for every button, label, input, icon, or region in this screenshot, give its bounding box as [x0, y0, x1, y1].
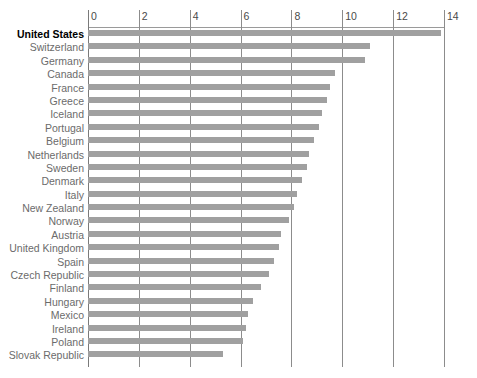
x-tick-label: 2 [139, 10, 148, 22]
category-label: Portugal [45, 122, 84, 135]
bar [88, 43, 370, 49]
category-label: Switzerland [30, 41, 84, 54]
bar-row: Denmark [88, 175, 444, 188]
category-label: Sweden [46, 162, 84, 175]
bar-row: Finland [88, 282, 444, 295]
bar-chart: 02468101214 United StatesSwitzerlandGerm… [0, 0, 477, 378]
bar-row: Austria [88, 229, 444, 242]
bar [88, 351, 223, 357]
category-label: Netherlands [27, 149, 84, 162]
bar [88, 84, 330, 90]
x-tick-label: 0 [88, 10, 97, 22]
bar-rows: United StatesSwitzerlandGermanyCanadaFra… [88, 28, 444, 363]
x-tick-label: 14 [444, 10, 459, 22]
bar [88, 204, 294, 210]
bar [88, 244, 279, 250]
category-label: Czech Republic [10, 269, 84, 282]
bar-row: Spain [88, 256, 444, 269]
bar-row: Ireland [88, 323, 444, 336]
category-label: Denmark [41, 175, 84, 188]
bar-row: United States [88, 28, 444, 41]
bar-row: Canada [88, 68, 444, 81]
bar-row: Norway [88, 215, 444, 228]
bar-row: Iceland [88, 108, 444, 121]
bar [88, 217, 289, 223]
category-label: Mexico [51, 309, 84, 322]
bar [88, 164, 307, 170]
bar [88, 137, 314, 143]
category-label: Finland [50, 282, 84, 295]
category-label: Germany [41, 55, 84, 68]
bar [88, 30, 441, 36]
x-tick-label: 4 [190, 10, 199, 22]
category-label: Norway [48, 215, 84, 228]
bar-row: Belgium [88, 135, 444, 148]
category-label: Belgium [46, 135, 84, 148]
category-label: Canada [47, 68, 84, 81]
bar [88, 151, 309, 157]
bar [88, 110, 322, 116]
bar [88, 325, 246, 331]
bar [88, 57, 365, 63]
bar-row: Switzerland [88, 41, 444, 54]
plot-area: 02468101214 United StatesSwitzerlandGerm… [88, 10, 444, 367]
bar-row: Italy [88, 189, 444, 202]
category-label: Ireland [52, 323, 84, 336]
bar-row: Germany [88, 55, 444, 68]
category-label: United Kingdom [9, 242, 84, 255]
bar [88, 97, 327, 103]
bar [88, 258, 274, 264]
bar [88, 177, 302, 183]
category-label: Poland [51, 336, 84, 349]
bar-row: Hungary [88, 296, 444, 309]
gridline-14 [444, 10, 445, 367]
bar [88, 338, 243, 344]
category-label: Hungary [44, 296, 84, 309]
category-label: Spain [57, 256, 84, 269]
bar [88, 311, 248, 317]
bar-row: Netherlands [88, 149, 444, 162]
bar [88, 231, 281, 237]
x-tick-label: 8 [291, 10, 300, 22]
bar-row: Slovak Republic [88, 349, 444, 362]
bar-row: Sweden [88, 162, 444, 175]
bar [88, 298, 253, 304]
category-label: Italy [65, 189, 84, 202]
bar-row: Mexico [88, 309, 444, 322]
x-tick-label: 12 [393, 10, 408, 22]
bar-row: Portugal [88, 122, 444, 135]
x-tick-label: 6 [241, 10, 250, 22]
category-label: United States [17, 28, 84, 41]
category-label: New Zealand [22, 202, 84, 215]
bar [88, 191, 297, 197]
category-label: Greece [50, 95, 84, 108]
bar [88, 284, 261, 290]
bar-row: Greece [88, 95, 444, 108]
bar-row: United Kingdom [88, 242, 444, 255]
bar-row: Czech Republic [88, 269, 444, 282]
category-label: Slovak Republic [9, 349, 84, 362]
category-label: Iceland [50, 108, 84, 121]
x-tick-label: 10 [342, 10, 357, 22]
category-label: Austria [51, 229, 84, 242]
bar [88, 271, 269, 277]
category-label: France [51, 82, 84, 95]
bar [88, 124, 319, 130]
bar-row: Poland [88, 336, 444, 349]
bar-row: New Zealand [88, 202, 444, 215]
bar [88, 70, 335, 76]
bar-row: France [88, 82, 444, 95]
